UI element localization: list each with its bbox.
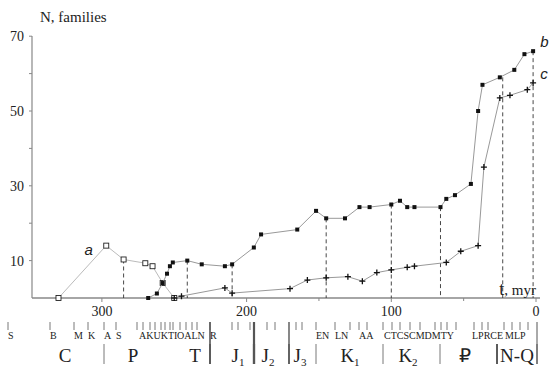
marker-filled-square xyxy=(531,49,535,53)
stage-label: B xyxy=(50,330,57,341)
series-b-line xyxy=(148,51,533,298)
stage-label: OALN xyxy=(177,330,205,341)
marker-filled-square xyxy=(252,246,256,250)
marker-filled-square xyxy=(476,109,480,113)
period-label: J3 xyxy=(294,345,307,368)
marker-filled-square xyxy=(512,68,516,72)
marker-filled-square xyxy=(171,260,175,264)
marker-plus xyxy=(507,92,513,98)
period-label: N-Q xyxy=(500,345,534,366)
marker-plus xyxy=(304,277,310,283)
marker-filled-square xyxy=(444,197,448,201)
x-axis-title: t, myr xyxy=(499,279,536,299)
marker-plus xyxy=(497,95,503,101)
stage-label: S xyxy=(116,330,122,341)
period-label: T xyxy=(189,345,201,366)
marker-filled-square xyxy=(259,232,263,236)
series-label-c: c xyxy=(540,65,548,82)
marker-filled-square xyxy=(522,52,526,56)
stage-label: R xyxy=(210,330,217,341)
marker-plus xyxy=(475,243,481,249)
stage-label: K xyxy=(88,330,96,341)
marker-plus xyxy=(404,264,410,270)
marker-filled-square xyxy=(412,205,416,209)
series-lines xyxy=(56,49,536,301)
marker-filled-square xyxy=(146,296,150,300)
marker-filled-square xyxy=(480,83,484,87)
stage-label: EN xyxy=(316,330,329,341)
marker-filled-square xyxy=(185,259,189,263)
period-label: ₽ xyxy=(459,345,471,366)
marker-plus xyxy=(323,275,329,281)
y-axis-title: N, families xyxy=(40,9,107,25)
stage-label: A xyxy=(104,330,112,341)
y-tick-label: 30 xyxy=(10,179,24,194)
x-tick-label: 200 xyxy=(236,304,257,319)
period-label: K2 xyxy=(398,345,417,368)
stage-label: S xyxy=(8,330,14,341)
x-tick-label: 0 xyxy=(533,304,540,319)
stage-label: LN xyxy=(335,330,348,341)
marker-filled-square xyxy=(398,199,402,203)
marker-filled-square xyxy=(223,264,227,268)
marker-plus xyxy=(481,164,487,170)
period-label: J2 xyxy=(262,345,275,368)
x-tick-label: 300 xyxy=(91,304,112,319)
stage-label: CTCSCMDMTY xyxy=(384,330,454,341)
stage-label: LPRCE xyxy=(472,330,503,341)
marker-plus xyxy=(374,270,380,276)
y-tick-label: 10 xyxy=(10,254,24,269)
marker-plus xyxy=(345,274,351,280)
stage-label: MLP xyxy=(505,330,526,341)
marker-plus xyxy=(287,286,293,292)
series-label-a: a xyxy=(85,241,93,258)
marker-filled-square xyxy=(368,205,372,209)
axis-labels: N, familiest, myrabc xyxy=(40,9,549,299)
marker-filled-square xyxy=(155,292,159,296)
marker-filled-square xyxy=(405,205,409,209)
series-a-line xyxy=(59,246,175,298)
marker-filled-square xyxy=(324,216,328,220)
marker-plus xyxy=(411,263,417,269)
stage-label: AKUKTI xyxy=(139,330,177,341)
marker-filled-square xyxy=(314,209,318,213)
period-label: P xyxy=(128,345,139,366)
marker-filled-square xyxy=(389,203,393,207)
y-tick-label: 50 xyxy=(10,104,24,119)
chart: 103050703002001000 N, familiest, myrabc … xyxy=(0,0,557,369)
marker-filled-square xyxy=(453,193,457,197)
marker-filled-square xyxy=(168,264,172,268)
period-label: C xyxy=(59,345,72,366)
stage-label: M xyxy=(74,330,83,341)
marker-open-square xyxy=(104,243,109,248)
y-tick-label: 70 xyxy=(10,29,24,44)
marker-filled-square xyxy=(357,205,361,209)
marker-filled-square xyxy=(498,75,502,79)
period-label: K1 xyxy=(340,345,359,368)
marker-plus xyxy=(388,267,394,273)
axes: 103050703002001000 xyxy=(10,29,540,319)
x-tick-label: 100 xyxy=(381,304,402,319)
marker-filled-square xyxy=(469,182,473,186)
marker-filled-square xyxy=(230,262,234,266)
marker-filled-square xyxy=(438,205,442,209)
marker-filled-square xyxy=(165,272,169,276)
marker-open-square xyxy=(121,257,126,262)
marker-filled-square xyxy=(343,216,347,220)
marker-filled-square xyxy=(295,228,299,232)
marker-filled-square xyxy=(200,262,204,266)
series-label-b: b xyxy=(540,33,548,50)
period-label: J1 xyxy=(232,345,245,368)
stage-label: AA xyxy=(359,330,374,341)
marker-filled-square xyxy=(161,281,165,285)
marker-plus xyxy=(359,278,365,284)
marker-open-square xyxy=(150,264,155,269)
marker-open-square xyxy=(56,296,61,301)
marker-open-square xyxy=(143,261,148,266)
geologic-time-scale: SBMKASAKUKTIOALNRENLNAACTCSCMDMTYLPRCEML… xyxy=(8,322,537,368)
